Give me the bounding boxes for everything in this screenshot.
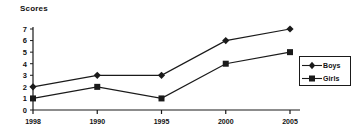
data-series-group xyxy=(29,25,293,101)
legend-label-boys: Boys xyxy=(323,62,341,69)
square-marker-icon xyxy=(302,73,322,84)
data-point-girls xyxy=(159,95,165,101)
x-axis: 19981990199520002005 xyxy=(25,110,300,125)
y-tick-label: 1 xyxy=(23,94,27,103)
y-tick-label: 0 xyxy=(23,106,27,115)
data-point-boys xyxy=(158,72,165,79)
data-point-girls xyxy=(94,84,100,90)
y-tick-label: 7 xyxy=(23,25,27,34)
x-tick-label: 1998 xyxy=(25,118,41,125)
x-tick-label: 2000 xyxy=(218,118,234,125)
data-point-girls xyxy=(30,95,36,101)
data-point-boys xyxy=(286,25,293,32)
y-tick-label: 6 xyxy=(23,36,27,45)
data-point-boys xyxy=(29,83,36,90)
y-tick-label: 2 xyxy=(23,83,27,92)
data-point-girls xyxy=(287,49,293,55)
x-tick-label: 1995 xyxy=(154,118,170,125)
x-tick-label: 2005 xyxy=(282,118,298,125)
x-tick-label: 1990 xyxy=(89,118,105,125)
y-tick-label: 5 xyxy=(23,48,27,57)
diamond-marker-icon xyxy=(302,60,322,71)
legend-item-boys: Boys xyxy=(300,59,350,72)
legend-item-girls: Girls xyxy=(300,72,350,85)
y-tick-label: 4 xyxy=(23,60,28,69)
data-point-boys xyxy=(94,72,101,79)
data-point-girls xyxy=(223,61,229,67)
data-point-boys xyxy=(222,37,229,44)
chart-legend: Boys Girls xyxy=(299,56,351,86)
line-chart: Scores 01234567 19981990199520002005 Boy… xyxy=(0,0,354,134)
legend-label-girls: Girls xyxy=(323,75,339,82)
y-tick-label: 3 xyxy=(23,71,27,80)
